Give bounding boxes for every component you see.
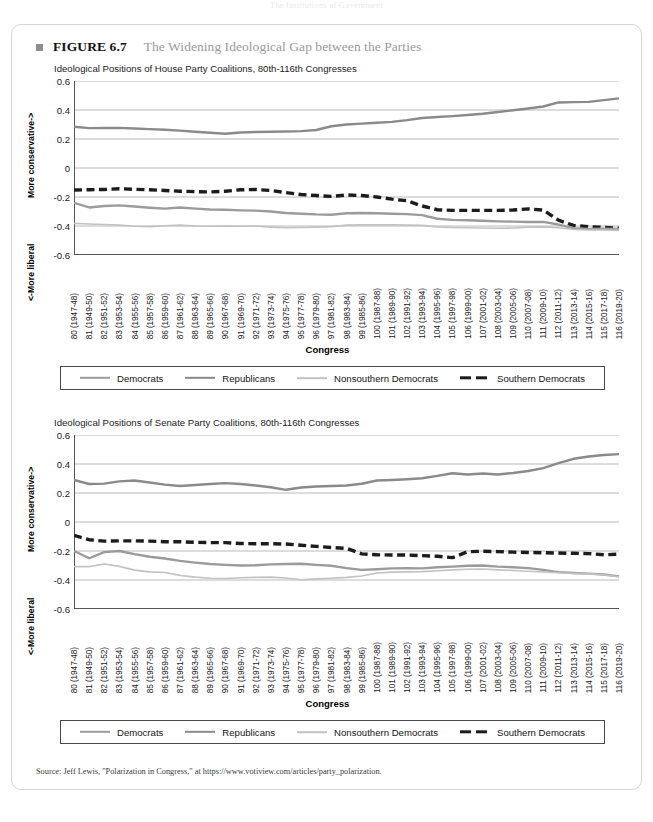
x-tick-label: 101 (1989-90)	[387, 642, 397, 693]
chart-subtitle-senate: Ideological Positions of Senate Party Co…	[54, 417, 359, 428]
chart-panel-senate: Ideological Positions of Senate Party Co…	[12, 417, 643, 753]
x-tick-label: 116 (2019-20)	[614, 289, 624, 339]
legend-item[interactable]: Southern Democrats	[460, 727, 585, 738]
x-axis-ticks-senate: 80 (1947-48)81 (1949-50)82 (1951-52)83 (…	[74, 613, 619, 693]
x-tick-label: 105 (1997-98)	[447, 288, 457, 339]
x-tick-label: 115 (2017-18)	[599, 289, 609, 339]
legend-house: DemocratsRepublicansNonsouthern Democrat…	[60, 366, 605, 390]
x-tick-label: 85 (1957-58)	[145, 293, 155, 339]
legend-swatch-icon	[460, 728, 490, 737]
source-note: Source: Jeff Lewis, "Polarization in Con…	[36, 767, 382, 776]
x-tick-label: 106 (1999-00)	[463, 642, 473, 693]
legend-label: Republicans	[222, 727, 275, 738]
x-tick-label: 81 (1949-50)	[84, 647, 94, 693]
x-tick-label: 99 (1985-86)	[357, 647, 367, 693]
legend-swatch-icon	[297, 374, 327, 383]
x-tick-label: 92 (1971-72)	[251, 293, 261, 339]
legend-item[interactable]: Democrats	[80, 727, 163, 738]
legend-swatch-icon	[80, 728, 110, 737]
figure-card: FIGURE 6.7 The Widening Ideological Gap …	[11, 24, 642, 790]
x-tick-label: 99 (1985-86)	[357, 293, 367, 339]
x-tick-label: 113 (2013-14)	[569, 643, 579, 693]
x-tick-label: 80 (1947-48)	[69, 293, 79, 339]
x-tick-label: 91 (1969-70)	[236, 647, 246, 693]
legend-label: Nonsouthern Democrats	[334, 727, 438, 738]
x-tick-label: 103 (1993-94)	[417, 288, 427, 339]
legend-label: Southern Democrats	[497, 373, 585, 384]
y-tick-label: -0.6	[40, 604, 70, 615]
x-tick-label: 96 (1979-80)	[311, 293, 321, 339]
x-tick-label: 108 (2003-04)	[493, 642, 503, 693]
legend-swatch-icon	[185, 374, 215, 383]
legend-item[interactable]: Southern Democrats	[460, 373, 585, 384]
x-tick-label: 97 (1981-82)	[326, 647, 336, 693]
y-tick-label: 0	[40, 517, 70, 528]
x-tick-label: 91 (1969-70)	[236, 293, 246, 339]
legend-label: Nonsouthern Democrats	[334, 373, 438, 384]
figure-title: The Widening Ideological Gap between the…	[144, 39, 422, 55]
x-axis-title-house: Congress	[12, 344, 643, 355]
x-tick-label: 110 (2007-08)	[523, 643, 533, 693]
series-line	[74, 564, 619, 580]
x-tick-label: 112 (2011-12)	[553, 643, 563, 693]
series-line	[74, 98, 619, 133]
x-tick-label: 92 (1971-72)	[251, 647, 261, 693]
x-tick-label: 81 (1949-50)	[84, 293, 94, 339]
legend-label: Democrats	[117, 727, 163, 738]
x-tick-label: 100 (1987-88)	[372, 288, 382, 339]
y-axis-title-conservative-house: More conservative->	[26, 93, 36, 198]
series-line	[74, 535, 619, 557]
x-tick-label: 90 (1967-68)	[220, 647, 230, 693]
y-tick-label: -0.2	[40, 546, 70, 557]
x-tick-label: 86 (1959-60)	[160, 293, 170, 339]
legend-label: Southern Democrats	[497, 727, 585, 738]
x-tick-label: 88 (1963-64)	[190, 647, 200, 693]
legend-item[interactable]: Republicans	[185, 727, 275, 738]
running-head: The Institutions of Government	[0, 1, 653, 11]
x-tick-label: 80 (1947-48)	[69, 647, 79, 693]
x-tick-label: 107 (2001-02)	[478, 642, 488, 693]
y-axis-title-conservative-senate: More conservative->	[26, 447, 36, 552]
x-tick-label: 85 (1957-58)	[145, 647, 155, 693]
x-tick-label: 111 (2009-10)	[538, 289, 548, 339]
x-tick-label: 86 (1959-60)	[160, 647, 170, 693]
series-line	[74, 223, 619, 230]
x-tick-label: 88 (1963-64)	[190, 293, 200, 339]
y-tick-label: 0.2	[40, 488, 70, 499]
x-tick-label: 105 (1997-98)	[447, 642, 457, 693]
x-tick-label: 95 (1977-78)	[296, 647, 306, 693]
y-tick-label: -0.2	[40, 192, 70, 203]
x-axis-title-senate: Congress	[12, 698, 643, 709]
x-tick-label: 89 (1965-66)	[205, 647, 215, 693]
x-axis-ticks-house: 80 (1947-48)81 (1949-50)82 (1951-52)83 (…	[74, 259, 619, 339]
x-tick-label: 90 (1967-68)	[220, 293, 230, 339]
legend-item[interactable]: Nonsouthern Democrats	[297, 373, 438, 384]
legend-item[interactable]: Nonsouthern Democrats	[297, 727, 438, 738]
legend-swatch-icon	[80, 374, 110, 383]
x-tick-label: 98 (1983-84)	[342, 647, 352, 693]
x-tick-label: 84 (1955-56)	[130, 293, 140, 339]
y-tick-label: -0.4	[40, 221, 70, 232]
x-tick-label: 115 (2017-18)	[599, 643, 609, 693]
x-tick-label: 82 (1951-52)	[99, 293, 109, 339]
y-axis-title-liberal-senate: <-More liberal	[26, 555, 36, 655]
x-tick-label: 103 (1993-94)	[417, 642, 427, 693]
x-tick-label: 94 (1975-76)	[281, 293, 291, 339]
x-tick-label: 83 (1953-54)	[114, 647, 124, 693]
square-bullet-icon	[36, 44, 43, 51]
x-tick-label: 102 (1991-92)	[402, 642, 412, 693]
y-tick-label: 0.4	[40, 105, 70, 116]
y-tick-label: 0.6	[40, 76, 70, 87]
chart-svg	[74, 435, 619, 609]
legend-swatch-icon	[297, 728, 327, 737]
y-axis-ticks-senate: 0.60.40.20-0.2-0.4-0.6	[40, 435, 70, 609]
y-tick-label: -0.6	[40, 250, 70, 261]
x-tick-label: 114 (2015-16)	[584, 289, 594, 339]
legend-item[interactable]: Republicans	[185, 373, 275, 384]
figure-heading: FIGURE 6.7 The Widening Ideological Gap …	[36, 37, 596, 57]
x-tick-label: 94 (1975-76)	[281, 647, 291, 693]
x-tick-label: 113 (2013-14)	[569, 289, 579, 339]
legend-item[interactable]: Democrats	[80, 373, 163, 384]
y-tick-label: -0.4	[40, 575, 70, 586]
x-tick-label: 109 (2005-06)	[508, 642, 518, 693]
